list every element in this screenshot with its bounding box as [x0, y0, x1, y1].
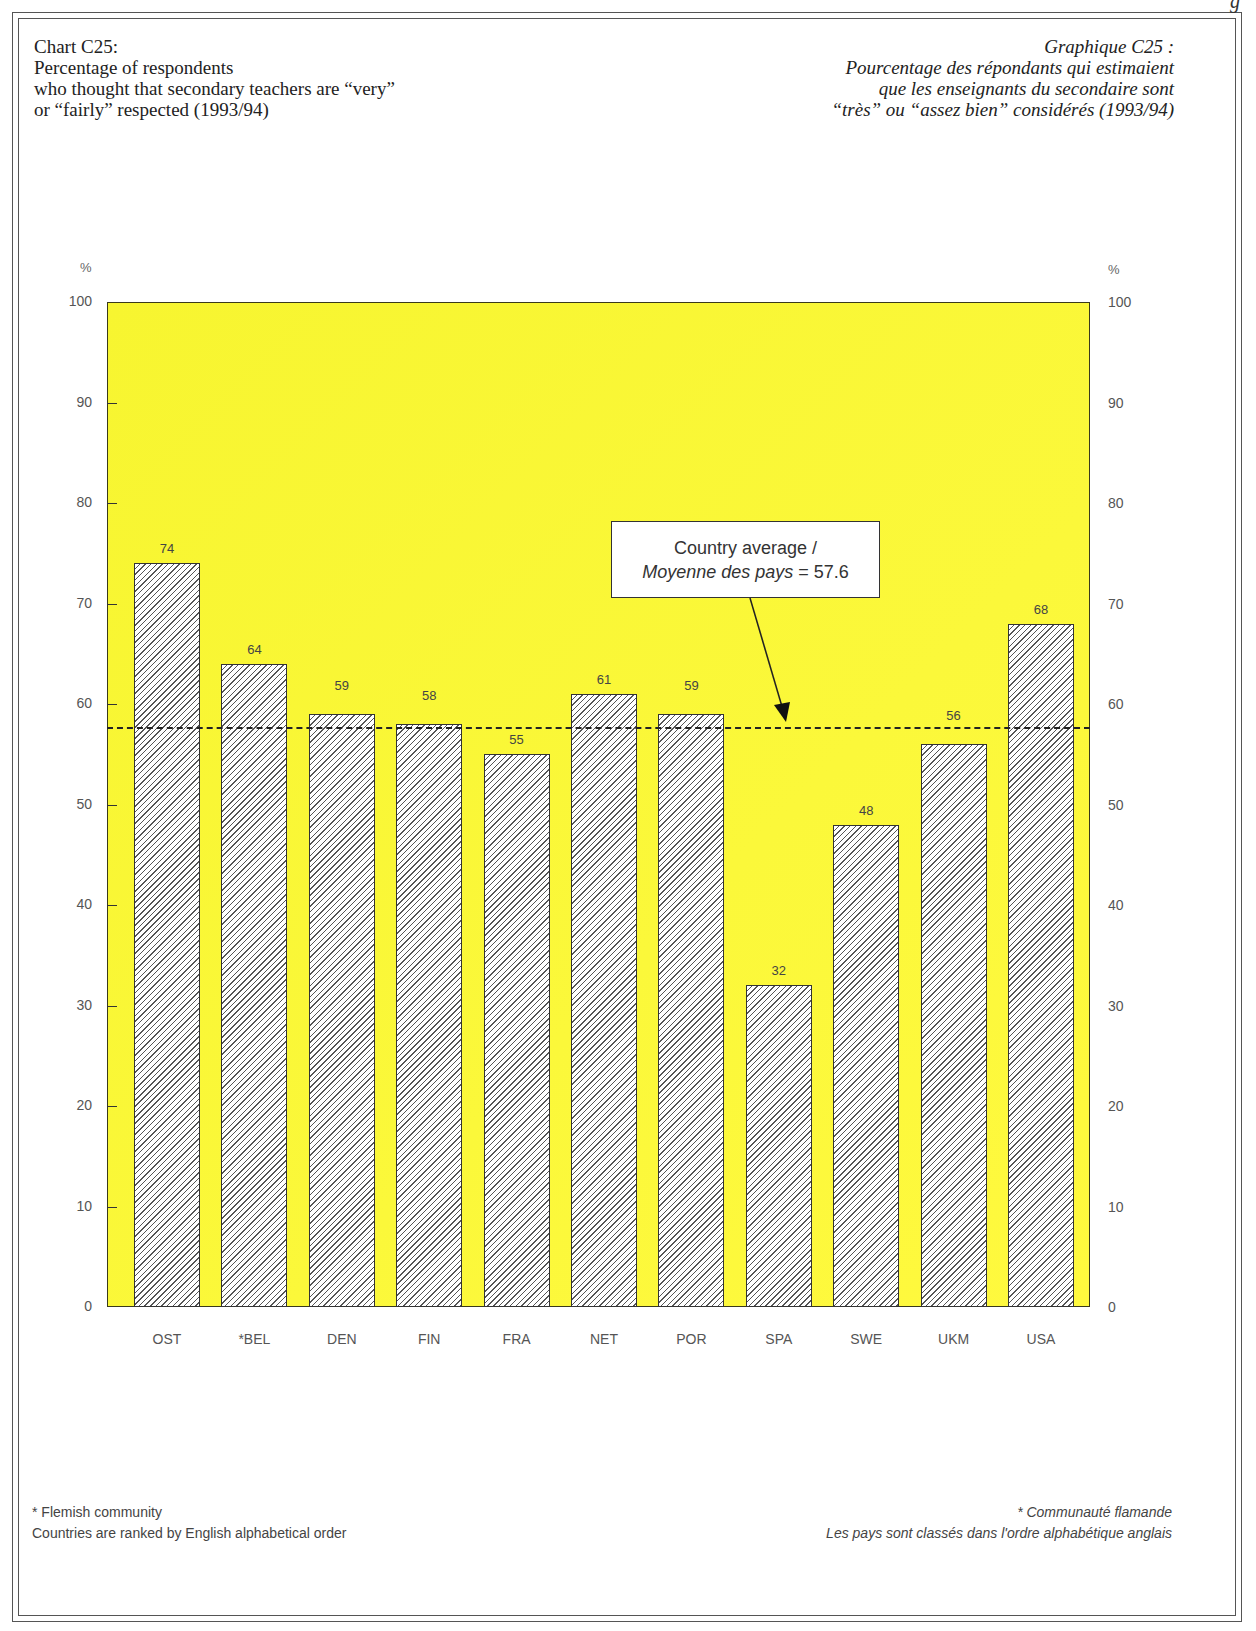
bar-value-label: 32: [746, 963, 812, 978]
x-category-label: FIN: [396, 1331, 462, 1347]
x-category-label: SPA: [746, 1331, 812, 1347]
chart-title-english: Chart C25: Percentage of respondents who…: [34, 36, 395, 120]
footnotes-english: * Flemish community Countries are ranked…: [32, 1502, 346, 1544]
title-en-line-1: Chart C25:: [34, 36, 118, 57]
y-tick-label-right: 20: [1108, 1098, 1148, 1114]
x-category-label: USA: [1008, 1331, 1074, 1347]
bar-ukm: [921, 744, 987, 1307]
bar-swe: [833, 825, 899, 1307]
y-axis-unit-left: %: [80, 260, 92, 275]
y-tick-label-right: 10: [1108, 1199, 1148, 1215]
callout-line-2: Moyenne des pays = 57.6: [612, 560, 879, 584]
x-category-label: NET: [571, 1331, 637, 1347]
x-category-label: *BEL: [221, 1331, 287, 1347]
y-tick-label-left: 10: [52, 1198, 92, 1214]
y-tick-label-left: 0: [52, 1298, 92, 1314]
y-tick-label-right: 30: [1108, 998, 1148, 1014]
chart-title-french: Graphique C25 : Pourcentage des répondan…: [831, 36, 1174, 120]
average-callout-box: Country average / Moyenne des pays = 57.…: [611, 521, 880, 598]
country-average-line: [107, 727, 1090, 729]
y-tick-label-right: 90: [1108, 395, 1148, 411]
bar-fra: [484, 754, 550, 1307]
title-en-line-2: Percentage of respondents: [34, 57, 233, 78]
x-category-label: OST: [134, 1331, 200, 1347]
title-fr-line-3: que les enseignants du secondaire sont: [879, 78, 1174, 99]
y-tick-mark: [107, 503, 117, 504]
y-tick-mark: [107, 1006, 117, 1007]
y-tick-mark: [107, 403, 117, 404]
y-tick-label-left: 60: [52, 695, 92, 711]
bar-value-label: 64: [221, 642, 287, 657]
y-tick-mark: [107, 704, 117, 705]
y-tick-label-left: 50: [52, 796, 92, 812]
footnotes-french: * Communauté flamande Les pays sont clas…: [826, 1502, 1172, 1544]
y-tick-label-left: 20: [52, 1097, 92, 1113]
bar-value-label: 74: [134, 541, 200, 556]
x-category-label: SWE: [833, 1331, 899, 1347]
title-en-line-4: or “fairly” respected (1993/94): [34, 99, 269, 120]
bar-value-label: 58: [396, 688, 462, 703]
page-header-fragment: g: [1230, 0, 1240, 13]
y-tick-label-left: 90: [52, 394, 92, 410]
y-tick-label-right: 50: [1108, 797, 1148, 813]
bar-net: [571, 694, 637, 1307]
title-en-line-3: who thought that secondary teachers are …: [34, 78, 395, 99]
title-fr-line-1: Graphique C25 :: [1044, 36, 1174, 57]
y-axis-unit-right: %: [1108, 262, 1120, 277]
y-tick-mark: [107, 905, 117, 906]
callout-line-1: Country average /: [612, 536, 879, 560]
callout-value: = 57.6: [793, 562, 849, 582]
bar-value-label: 61: [571, 672, 637, 687]
y-tick-label-right: 80: [1108, 495, 1148, 511]
bar-fin: [396, 724, 462, 1307]
y-tick-mark: [107, 1106, 117, 1107]
footnote-ranking-fr: Les pays sont classés dans l'ordre alpha…: [826, 1523, 1172, 1544]
bar-value-label: 56: [921, 708, 987, 723]
bar-den: [309, 714, 375, 1307]
y-tick-label-right: 100: [1108, 294, 1148, 310]
y-tick-label-left: 30: [52, 997, 92, 1013]
footnote-flemish-fr: * Communauté flamande: [826, 1502, 1172, 1523]
title-fr-line-4: “très” ou “assez bien” considérés (1993/…: [831, 99, 1174, 120]
title-fr-line-2: Pourcentage des répondants qui estimaien…: [845, 57, 1174, 78]
bar-ost: [134, 563, 200, 1307]
footnote-flemish-en: * Flemish community: [32, 1502, 346, 1523]
bar-value-label: 59: [658, 678, 724, 693]
bar-bel: [221, 664, 287, 1307]
bar-value-label: 55: [484, 732, 550, 747]
bar-value-label: 59: [309, 678, 375, 693]
y-tick-label-right: 70: [1108, 596, 1148, 612]
bar-usa: [1008, 624, 1074, 1307]
callout-label-fr: Moyenne des pays: [642, 562, 793, 582]
x-category-label: POR: [658, 1331, 724, 1347]
y-tick-label-left: 70: [52, 595, 92, 611]
x-category-label: DEN: [309, 1331, 375, 1347]
y-tick-label-right: 40: [1108, 897, 1148, 913]
x-category-label: UKM: [921, 1331, 987, 1347]
y-tick-label-right: 60: [1108, 696, 1148, 712]
y-tick-label-left: 80: [52, 494, 92, 510]
bar-value-label: 48: [833, 803, 899, 818]
x-category-label: FRA: [484, 1331, 550, 1347]
y-tick-label-left: 100: [52, 293, 92, 309]
y-tick-label-right: 0: [1108, 1299, 1148, 1315]
bar-value-label: 68: [1008, 602, 1074, 617]
y-tick-mark: [107, 604, 117, 605]
y-tick-mark: [107, 1207, 117, 1208]
y-tick-label-left: 40: [52, 896, 92, 912]
bar-spa: [746, 985, 812, 1307]
footnote-ranking-en: Countries are ranked by English alphabet…: [32, 1523, 346, 1544]
bar-por: [658, 714, 724, 1307]
y-tick-mark: [107, 805, 117, 806]
